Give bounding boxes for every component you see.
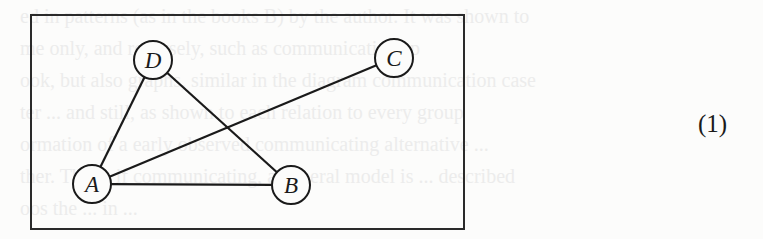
edge-a-d [100,77,144,167]
node-b: B [272,166,310,204]
graph-figure: ABCD [0,0,763,239]
equation-number: (1) [698,110,727,138]
node-d: D [134,41,172,79]
node-a: A [73,165,111,203]
node-label: D [144,48,162,73]
node-label: B [284,173,298,198]
node-c: C [375,39,413,77]
graph-edges [100,65,376,185]
edge-a-c [110,65,377,176]
node-label: A [83,172,100,197]
node-label: C [386,46,402,71]
edge-d-b [167,73,277,172]
edge-a-b [111,184,272,185]
